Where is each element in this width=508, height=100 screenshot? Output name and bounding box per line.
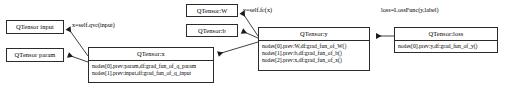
edge-label-x: x=self.qvc(input) — [72, 21, 115, 29]
node-qtensor-w[interactable]: QTensor:W — [186, 4, 238, 17]
node-row: nodes[0].prev:param,df:grad_fun_of_q_par… — [92, 63, 210, 70]
edge-label-loss: loss=LossFunc(y,label) — [381, 6, 439, 14]
node-qtensor-loss-rows: nodes[0].prev:y,df:grad_fun_of_y() — [395, 41, 497, 52]
node-row: nodes[0].prev:W,df:grad_fun_of_W() — [262, 43, 366, 50]
edge-y-to-x — [218, 42, 258, 54]
node-qtensor-b[interactable]: QTensor:b — [186, 24, 238, 37]
node-qtensor-input[interactable]: QTensor input — [6, 20, 64, 34]
node-qtensor-y-title: QTensor:y — [259, 28, 369, 41]
node-qtensor-w-title: QTensor:W — [197, 6, 228, 16]
node-qtensor-b-title: QTensor:b — [198, 26, 226, 36]
edge-label-y: y=self.fc(x) — [243, 6, 272, 14]
node-qtensor-param[interactable]: QTensor param — [6, 48, 64, 62]
node-qtensor-y[interactable]: QTensor:y nodes[0].prev:W,df:grad_fun_of… — [258, 27, 370, 71]
diagram-canvas: x=self.qvc(input) y=self.fc(x) loss=Loss… — [0, 0, 508, 100]
node-qtensor-x-title: QTensor:x — [89, 48, 213, 61]
node-qtensor-x[interactable]: QTensor:x nodes[0].prev:param,df:grad_fu… — [88, 47, 214, 83]
node-row: nodes[1].prev:b,df:grad_fun_of_b() — [262, 50, 366, 57]
edge-x-to-param — [68, 55, 88, 62]
node-row: nodes[2].prev:x,df:grad_fun_of_x() — [262, 57, 366, 64]
node-qtensor-y-rows: nodes[0].prev:W,df:grad_fun_of_W() nodes… — [259, 41, 369, 66]
node-qtensor-loss[interactable]: QTensor:loss nodes[0].prev:y,df:grad_fun… — [394, 27, 498, 53]
node-row: nodes[0].prev:y,df:grad_fun_of_y() — [398, 43, 494, 50]
node-row: nodes[1].prev:input,df:grad_fun_of_q_inp… — [92, 70, 210, 77]
node-qtensor-x-rows: nodes[0].prev:param,df:grad_fun_of_q_par… — [89, 61, 213, 79]
node-qtensor-loss-title: QTensor:loss — [395, 28, 497, 41]
node-qtensor-input-title: QTensor input — [16, 22, 54, 32]
edge-x-to-input — [68, 28, 88, 56]
node-qtensor-param-title: QTensor param — [15, 50, 56, 60]
